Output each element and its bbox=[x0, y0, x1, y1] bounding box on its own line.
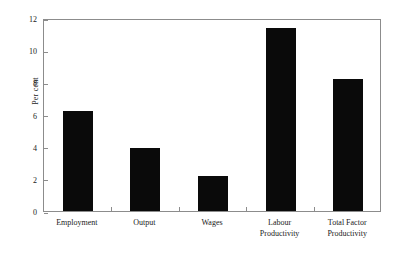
y-tick-mark bbox=[44, 148, 48, 149]
plot-area: 024681012 bbox=[43, 19, 381, 212]
x-category-label: Employment bbox=[43, 218, 111, 229]
x-category-label: Output bbox=[111, 218, 179, 229]
bar bbox=[266, 28, 296, 211]
x-category-label: Wages bbox=[178, 218, 246, 229]
y-tick-mark bbox=[44, 180, 48, 181]
y-tick-mark bbox=[44, 84, 48, 85]
x-category-label: LabourProductivity bbox=[246, 218, 314, 239]
x-category-label: Total FactorProductivity bbox=[313, 218, 381, 239]
y-tick-label: 2 bbox=[15, 175, 37, 186]
bar bbox=[333, 79, 363, 211]
y-tick-label: 8 bbox=[15, 78, 37, 89]
x-tick-mark bbox=[314, 207, 315, 211]
y-tick-mark bbox=[44, 52, 48, 53]
x-tick-mark bbox=[179, 207, 180, 211]
x-category-label-line1: Output bbox=[133, 218, 155, 227]
y-tick-mark bbox=[44, 116, 48, 117]
bar bbox=[130, 148, 160, 211]
x-category-label-line2: Productivity bbox=[246, 229, 314, 240]
x-tick-mark bbox=[111, 207, 112, 211]
x-tick-mark bbox=[246, 207, 247, 211]
y-tick-label: 6 bbox=[15, 111, 37, 122]
y-tick-mark bbox=[44, 213, 48, 214]
y-tick-label: 4 bbox=[15, 143, 37, 154]
y-tick-label: 12 bbox=[15, 14, 37, 25]
x-category-label-line1: Total Factor bbox=[328, 218, 367, 227]
bar bbox=[63, 111, 93, 211]
x-category-label-line2: Productivity bbox=[313, 229, 381, 240]
y-tick-label: 0 bbox=[15, 207, 37, 218]
bar bbox=[198, 176, 228, 211]
y-tick-label: 10 bbox=[15, 46, 37, 57]
x-category-label-line1: Employment bbox=[56, 218, 97, 227]
y-tick-mark bbox=[44, 20, 48, 21]
x-category-label-line1: Wages bbox=[201, 218, 222, 227]
bar-chart-figure: Per cent 024681012 EmploymentOutputWages… bbox=[0, 0, 400, 257]
x-category-label-line1: Labour bbox=[268, 218, 291, 227]
